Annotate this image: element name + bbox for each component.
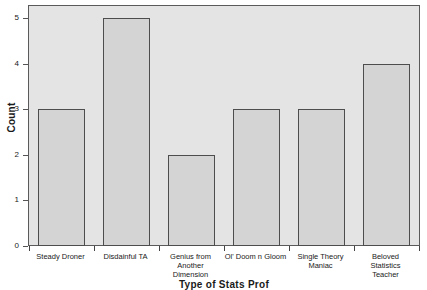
x-tick-mark [159,246,160,251]
x-category-label-line: Maniac [288,261,353,270]
bar [38,109,85,246]
y-tick-label: 0 [0,242,19,250]
x-category-label: BelovedStatisticsTeacher [353,252,418,280]
x-tick-mark [419,246,420,251]
y-tick-label: 4 [0,60,19,68]
x-category-label-line: Disdainful TA [93,252,158,261]
y-axis-ticks: 012345 [0,0,24,285]
x-category-label-line: Genius from [158,252,223,261]
x-category-label-line: Ol' Doom n Gloom [223,252,288,261]
x-category-label: Steady Droner [28,252,93,261]
x-tick-mark [29,246,30,251]
y-tick-label: 1 [0,196,19,204]
x-category-label: Disdainful TA [93,252,158,261]
bar [103,18,150,246]
x-category-label-line: Beloved [353,252,418,261]
x-category-label-line: Steady Droner [28,252,93,261]
x-category-label: Single TheoryManiac [288,252,353,270]
y-tick-label: 3 [0,105,19,113]
x-category-label-line: Statistics [353,261,418,270]
x-tick-mark [224,246,225,251]
x-category-label: Ol' Doom n Gloom [223,252,288,261]
bar [363,64,410,246]
x-tick-mark [94,246,95,251]
x-category-label: Genius fromAnotherDimension [158,252,223,280]
bar [233,109,280,246]
x-category-label-line: Single Theory [288,252,353,261]
x-tick-mark [289,246,290,251]
y-tick-mark [23,246,28,247]
bar [168,155,215,246]
bar [298,109,345,246]
y-tick-label: 5 [0,14,19,22]
x-axis-title: Type of Stats Prof [28,279,420,290]
x-tick-mark [354,246,355,251]
y-tick-label: 2 [0,151,19,159]
x-category-label-line: Another [158,261,223,270]
bars-layer [29,6,419,246]
